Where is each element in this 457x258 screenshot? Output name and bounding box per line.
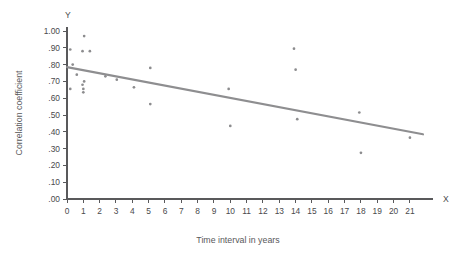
x-tick-label: 5 [146, 206, 151, 216]
y-tick-label: .80 [48, 60, 60, 70]
data-point [69, 88, 72, 91]
x-tick-label: 13 [275, 206, 285, 216]
x-tick-label: 12 [258, 206, 268, 216]
data-point [360, 151, 363, 154]
x-tick-label: 3 [114, 206, 119, 216]
y-tick-label: .40 [48, 127, 60, 137]
x-tick-label: 2 [97, 206, 102, 216]
x-tick-label: 8 [195, 206, 200, 216]
data-point [104, 75, 107, 78]
x-tick-label: 7 [179, 206, 184, 216]
x-tick-label: 4 [130, 206, 135, 216]
data-point [81, 83, 84, 86]
data-point [69, 48, 72, 51]
data-point [83, 80, 86, 83]
x-axis-symbol-label: X [443, 194, 449, 204]
x-tick-label: 21 [405, 206, 415, 216]
trend-line [67, 67, 423, 134]
data-points [69, 35, 411, 154]
x-tick-label: 11 [242, 206, 251, 216]
y-tick-label: .90 [48, 43, 60, 53]
y-axis-title: Correlation coefficient [14, 70, 24, 155]
x-tick-label: 6 [163, 206, 168, 216]
x-tick-label: 15 [307, 206, 317, 216]
data-point [81, 50, 84, 53]
x-tick-label: 16 [324, 206, 334, 216]
x-tick-label: 19 [373, 206, 383, 216]
data-point [296, 118, 299, 121]
x-tick-label: 20 [389, 206, 399, 216]
x-tick-label: 18 [356, 206, 366, 216]
data-point [294, 68, 297, 71]
y-tick-label: 1.00 [44, 26, 61, 36]
y-tick-label: .00 [48, 194, 60, 204]
data-point [89, 50, 92, 53]
y-axis-symbol-label: Y [65, 10, 71, 20]
x-axis-ticks: 0123456789101112131415161718192021 [65, 199, 415, 216]
y-axis-ticks: .00.10.20.30.40.50.60.70.80.901.00 [44, 26, 67, 204]
data-point [227, 88, 230, 91]
data-point [229, 125, 232, 128]
x-tick-label: 1 [81, 206, 86, 216]
data-point [149, 67, 152, 70]
data-point [115, 78, 118, 81]
data-point [82, 91, 85, 94]
scatter-plot-figure: .00.10.20.30.40.50.60.70.80.901.00 01234… [0, 0, 457, 258]
y-tick-label: .50 [48, 110, 60, 120]
data-point [83, 35, 86, 38]
data-point [71, 63, 74, 66]
data-point [133, 86, 136, 89]
data-point [358, 111, 361, 114]
data-point [293, 47, 296, 50]
y-tick-label: .30 [48, 144, 60, 154]
y-tick-label: .70 [48, 76, 60, 86]
x-tick-label: 17 [340, 206, 350, 216]
x-tick-label: 0 [65, 206, 70, 216]
data-point [409, 136, 412, 139]
x-tick-label: 14 [291, 206, 301, 216]
y-tick-label: .60 [48, 93, 60, 103]
plot-canvas: .00.10.20.30.40.50.60.70.80.901.00 01234… [0, 0, 457, 258]
x-tick-label: 10 [226, 206, 236, 216]
x-axis-title: Time interval in years [196, 235, 280, 245]
x-tick-label: 9 [212, 206, 217, 216]
data-point [82, 88, 85, 91]
y-tick-label: .20 [48, 160, 60, 170]
data-point [75, 73, 78, 76]
data-point [149, 103, 152, 106]
y-tick-label: .10 [48, 177, 60, 187]
